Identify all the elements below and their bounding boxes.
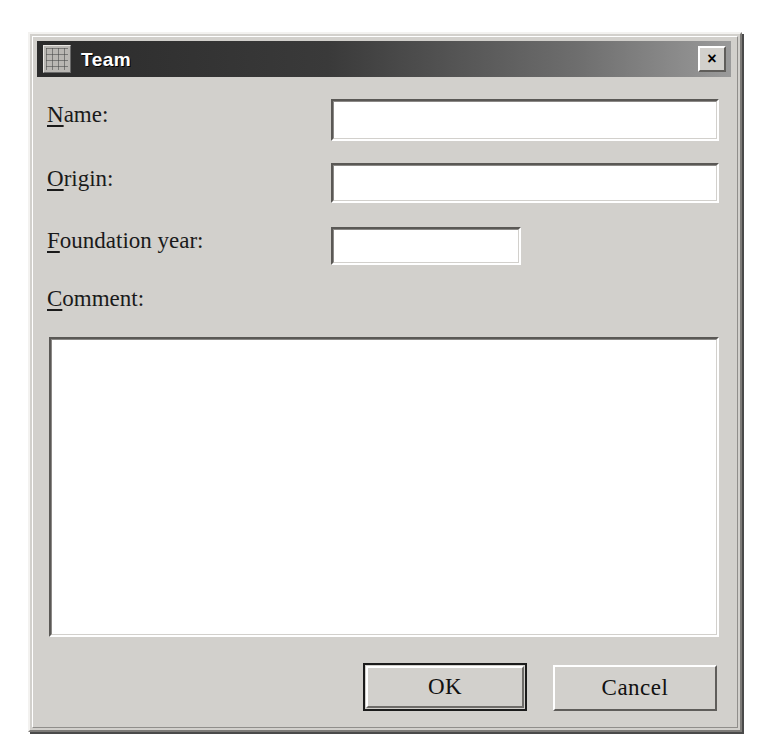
comment-field-frame	[49, 337, 719, 637]
origin-input[interactable]	[334, 166, 716, 200]
comment-label-accelerator: C	[47, 286, 62, 311]
close-button[interactable]: ×	[698, 46, 726, 72]
name-label-accelerator: N	[47, 102, 64, 127]
foundation-year-field-frame	[331, 227, 521, 265]
cancel-button[interactable]: Cancel	[553, 665, 717, 711]
window-app-icon-grid	[46, 48, 68, 70]
name-label-rest: ame:	[64, 102, 109, 127]
comment-textarea[interactable]	[52, 340, 716, 634]
foundation-year-input[interactable]	[334, 230, 518, 262]
origin-field-inner	[333, 165, 717, 201]
comment-label-rest: omment:	[62, 286, 144, 311]
origin-field-frame	[331, 163, 719, 203]
close-icon: ×	[707, 51, 716, 67]
window-app-icon	[43, 45, 71, 73]
titlebar: Team ×	[37, 41, 731, 77]
window-title: Team	[81, 50, 131, 69]
comment-field-inner	[51, 339, 717, 635]
name-field-inner	[333, 101, 717, 139]
team-dialog: Team × Name: Origin: Foundation year:	[28, 32, 742, 732]
ok-button[interactable]: OK	[363, 663, 527, 711]
origin-label: Origin:	[47, 167, 113, 190]
foundation-year-field-inner	[333, 229, 519, 263]
origin-label-accelerator: O	[47, 166, 64, 191]
name-input[interactable]	[334, 102, 716, 138]
foundation-year-label-accelerator: F	[47, 228, 60, 253]
origin-label-rest: rigin:	[64, 166, 114, 191]
name-label: Name:	[47, 103, 108, 126]
name-field-frame	[331, 99, 719, 141]
cancel-button-label: Cancel	[602, 675, 669, 701]
dialog-inner-frame: Team × Name: Origin: Foundation year:	[32, 36, 738, 728]
foundation-year-label-rest: oundation year:	[60, 228, 204, 253]
foundation-year-label: Foundation year:	[47, 229, 204, 252]
comment-label: Comment:	[47, 287, 144, 310]
ok-button-label: OK	[428, 674, 462, 700]
ok-button-face: OK	[366, 666, 524, 708]
